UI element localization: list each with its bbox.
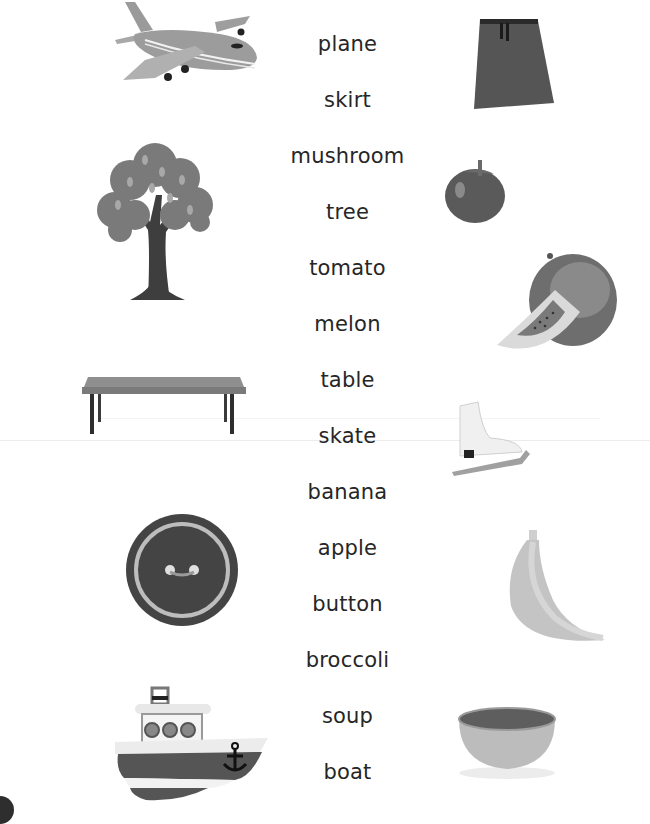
tree-icon	[90, 140, 220, 305]
table-icon	[80, 375, 248, 437]
corner-decoration	[0, 796, 14, 824]
melon-icon	[495, 250, 620, 360]
word-broccoli: broccoli	[270, 647, 425, 673]
word-melon: melon	[270, 311, 425, 337]
banana-icon	[495, 528, 610, 653]
word-boat: boat	[270, 759, 425, 785]
word-plane: plane	[270, 31, 425, 57]
plane-icon	[105, 0, 265, 85]
word-tree: tree	[270, 199, 425, 225]
word-mushroom: mushroom	[270, 143, 425, 169]
word-tomato: tomato	[270, 255, 425, 281]
word-soup: soup	[270, 703, 425, 729]
word-skirt: skirt	[270, 87, 425, 113]
word-skate: skate	[270, 423, 425, 449]
word-table: table	[270, 367, 425, 393]
skate-icon	[450, 400, 535, 478]
word-apple: apple	[270, 535, 425, 561]
button-icon	[122, 510, 242, 630]
word-button: button	[270, 591, 425, 617]
boat-icon	[110, 680, 270, 805]
soup-bowl-icon	[455, 705, 560, 780]
word-banana: banana	[270, 479, 425, 505]
skirt-icon	[470, 15, 560, 113]
tomato-icon	[442, 158, 510, 226]
